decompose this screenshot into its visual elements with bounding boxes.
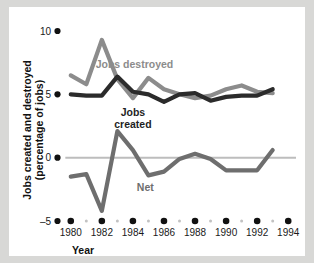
x-tick-dot-minor — [147, 220, 150, 223]
x-tick-dot-minor — [271, 220, 274, 223]
x-tick-dot-major — [254, 218, 261, 225]
y-tick-dot — [54, 218, 60, 224]
y-axis-title-line2: (percentage of jobs) — [33, 80, 45, 180]
x-tick-dot-minor — [85, 220, 88, 223]
y-tick-label: 10 — [40, 26, 52, 37]
jobs-destroyed-label: Jobs destroyed — [96, 58, 174, 70]
x-tick-dot-major — [67, 218, 74, 225]
chart-figure: –5051019801982198419861988199019921994Jo… — [9, 7, 305, 256]
x-tick-dot-major — [161, 218, 168, 225]
x-tick-dot-minor — [116, 220, 119, 223]
y-tick-dot — [54, 28, 60, 34]
x-tick-label: 1980 — [60, 227, 83, 238]
y-tick-label: 5 — [45, 89, 51, 100]
y-tick-dot — [54, 155, 60, 161]
x-tick-dot-major — [285, 218, 292, 225]
y-tick-label: 0 — [45, 152, 51, 163]
x-tick-dot-major — [130, 218, 137, 225]
x-tick-label: 1994 — [277, 227, 300, 238]
x-tick-dot-minor — [240, 220, 243, 223]
net-label: Net — [137, 181, 154, 193]
line-chart: –5051019801982198419861988199019921994Jo… — [9, 7, 305, 256]
x-tick-label: 1992 — [246, 227, 269, 238]
x-axis-title: Year — [72, 244, 94, 256]
x-tick-label: 1986 — [153, 227, 176, 238]
series-line-jobs-created — [71, 77, 273, 102]
y-axis-title-line1: Jobs created and destroyed — [21, 60, 33, 199]
x-tick-label: 1984 — [122, 227, 145, 238]
x-tick-label: 1988 — [184, 227, 207, 238]
y-tick-dot — [54, 91, 60, 97]
x-tick-dot-major — [192, 218, 199, 225]
x-tick-dot-major — [99, 218, 106, 225]
series-line-net — [71, 131, 273, 211]
jobs-created-label-line1: Jobs — [121, 106, 146, 118]
jobs-created-label-line2: created — [114, 118, 151, 130]
x-tick-dot-major — [223, 218, 230, 225]
x-tick-dot-minor — [178, 220, 181, 223]
x-tick-label: 1990 — [215, 227, 238, 238]
x-tick-label: 1982 — [91, 227, 114, 238]
x-tick-dot-minor — [209, 220, 212, 223]
y-tick-label: –5 — [40, 216, 52, 227]
